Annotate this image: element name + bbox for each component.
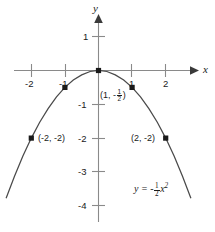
equation-exponent: 2 (165, 182, 169, 190)
fraction-denominator: 2 (117, 96, 123, 102)
x-tick-label-pos1: 1 (129, 79, 134, 89)
data-point-neg2 (29, 136, 34, 141)
parabola-figure: -2 -1 1 2 1 -1 -2 -3 -4 x y (1, -12) (-2… (0, 0, 215, 232)
annotation-point-neg-two: (-2, -2) (38, 134, 65, 143)
y-axis-label: y (93, 3, 98, 14)
data-point-pos2 (163, 136, 168, 141)
equation-fraction: 12 (154, 183, 160, 198)
equation-lead: y = - (134, 183, 154, 194)
x-axis-arrow-icon (190, 66, 199, 75)
annotation-point-one: (1, -12) (100, 89, 126, 103)
x-tick-label-pos2: 2 (163, 79, 168, 89)
annotation-one-close: ) (123, 90, 126, 100)
annotation-point-pos-two: (2, -2) (131, 134, 155, 143)
equation-fraction-denominator: 2 (154, 191, 160, 198)
y-tick-label-neg1: -1 (78, 100, 86, 110)
x-axis-label: x (203, 64, 208, 75)
y-axis-arrow-icon (94, 14, 103, 23)
annotation-one-open: (1, - (100, 90, 116, 100)
y-tick-label-neg4: -4 (78, 201, 86, 211)
equation-label: y = -12x2 (134, 183, 168, 198)
x-tick-label-neg1: -1 (59, 79, 67, 89)
data-point-origin (96, 68, 101, 73)
y-tick-label-neg2: -2 (78, 134, 86, 144)
y-tick-label-pos1: 1 (83, 32, 88, 42)
y-tick-label-neg3: -3 (78, 167, 86, 177)
plot-canvas (0, 0, 215, 232)
fraction-one-half: 12 (117, 89, 123, 103)
x-tick-label-neg2: -2 (25, 79, 33, 89)
